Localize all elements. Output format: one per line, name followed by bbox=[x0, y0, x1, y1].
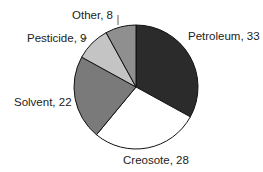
pie-chart: Petroleum, 33Creosote, 28Solvent, 22Pest… bbox=[0, 0, 263, 172]
slice-label-other: Other, 8 bbox=[72, 9, 113, 21]
slice-label-petroleum: Petroleum, 33 bbox=[188, 30, 260, 42]
slice-label-solvent: Solvent, 22 bbox=[14, 96, 72, 108]
slice-label-pesticide: Pesticide, 9 bbox=[27, 32, 86, 44]
slice-label-creosote: Creosote, 28 bbox=[123, 154, 189, 166]
